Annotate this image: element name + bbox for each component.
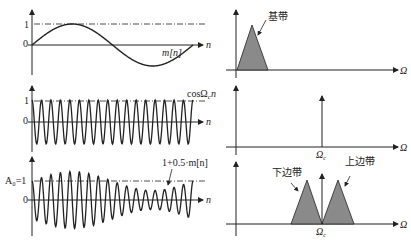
carrier-spectrum-plot: Ωc Ω bbox=[226, 86, 407, 161]
modulated-time-plot: A₀=1 0 n 1+0.5·m[n] bbox=[5, 157, 211, 236]
tick-1: 1 bbox=[24, 19, 29, 30]
modulated-spectrum-plot: 下边带 上边带 Ωc Ω bbox=[226, 156, 407, 238]
carrier-freq-label: Ωc bbox=[316, 149, 326, 161]
x-axis-label: Ω bbox=[400, 65, 407, 76]
carrier-label: cosΩcn bbox=[187, 88, 216, 101]
tick-0: 0 bbox=[23, 38, 28, 49]
x-axis-label: Ω bbox=[400, 142, 407, 153]
lower-sideband-label: 下边带 bbox=[272, 167, 302, 178]
x-axis-label: n bbox=[206, 116, 211, 127]
x-axis-label: Ω bbox=[400, 219, 407, 230]
baseband-label: 基带 bbox=[268, 10, 288, 22]
tick-1: 1 bbox=[24, 95, 29, 106]
signal-label: m[n] bbox=[162, 47, 182, 58]
x-axis-label: n bbox=[206, 39, 211, 50]
carrier-time-plot: 1 0 n cosΩcn bbox=[23, 86, 216, 152]
upper-sideband-label: 上边带 bbox=[345, 156, 375, 167]
carrier-freq-label: Ωc bbox=[316, 226, 326, 238]
baseband-time-plot: 1 0 n m[n] bbox=[23, 10, 211, 75]
tick-0: 0 bbox=[23, 115, 28, 126]
tick-0: 0 bbox=[23, 194, 28, 205]
envelope-label: 1+0.5·m[n] bbox=[162, 157, 208, 168]
tick-a0: A₀=1 bbox=[5, 175, 26, 186]
baseband-spectrum-plot: 基带 Ω bbox=[226, 10, 407, 78]
am-modulation-diagram: 1 0 n m[n] 1 0 n cosΩcn A₀=1 0 n 1+0.5·m… bbox=[0, 0, 411, 244]
x-axis-label: n bbox=[206, 194, 211, 205]
